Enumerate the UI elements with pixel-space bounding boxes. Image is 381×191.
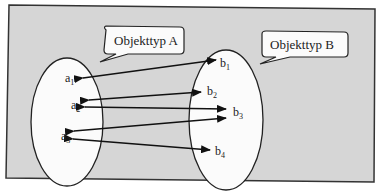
callout-b-text: Objekttyp B (270, 37, 334, 52)
mapping-diagram: Objekttyp A Objekttyp B a1 a2 a3 b1 b2 b… (0, 0, 381, 191)
callout-a-text: Objekttyp A (114, 33, 179, 48)
